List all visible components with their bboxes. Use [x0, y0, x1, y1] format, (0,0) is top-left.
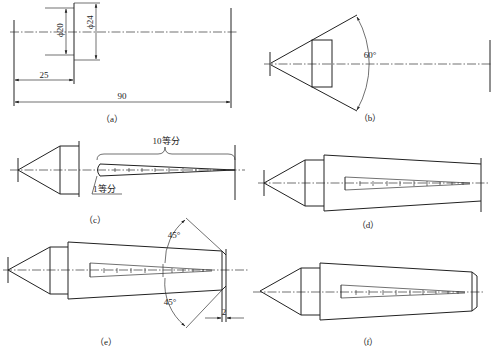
caption-f: （f） — [358, 337, 379, 347]
dim-phi24: ϕ24 — [85, 15, 95, 29]
label-one-part: 1等分 — [93, 183, 116, 194]
panel-a: ϕ20 ϕ24 25 90 （a） — [10, 3, 238, 124]
shoulder-rect — [312, 40, 332, 87]
caption-e: （e） — [95, 337, 117, 347]
panel-b: 60° （b） — [264, 15, 492, 123]
chamfered-end — [472, 272, 477, 311]
caption-a: （a） — [101, 114, 123, 124]
angle-60: 60° — [364, 50, 377, 60]
dim-2: 2 — [222, 307, 227, 317]
caption-d: （d） — [357, 220, 380, 230]
caption-c: （c） — [84, 215, 106, 225]
panel-c: 10等分 1等分 （c） — [10, 135, 245, 225]
angle-arc — [357, 17, 369, 110]
angle-45-bottom: 45° — [164, 297, 177, 307]
construction-45-top — [186, 218, 222, 251]
dim-25: 25 — [40, 70, 50, 80]
angle-45-top: 45° — [168, 230, 181, 240]
cone-upper — [271, 15, 357, 63]
label-ten-parts: 10等分 — [153, 135, 180, 146]
brace-ten — [97, 147, 235, 160]
panel-e: 45° 45° 2 （e） — [3, 218, 248, 347]
dim-phi20: ϕ20 — [55, 23, 65, 37]
panel-d: （d） — [258, 155, 490, 230]
caption-b: （b） — [359, 113, 382, 123]
cone-lower — [271, 65, 357, 111]
panel-f: （f） — [253, 263, 485, 347]
construction-45-bottom — [186, 290, 222, 328]
dim-90: 90 — [118, 91, 128, 101]
technical-drawing: ϕ20 ϕ24 25 90 （a） 60° （b） — [0, 0, 492, 357]
